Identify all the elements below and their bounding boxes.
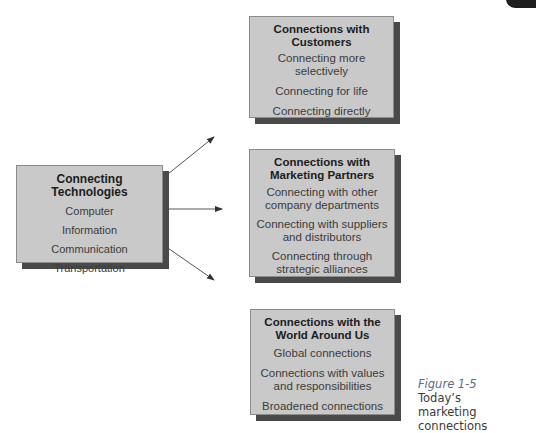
box-title: Connections with Marketing Partners <box>250 156 394 182</box>
connections-marketing-partners-box: Connections with Marketing Partners Conn… <box>249 149 395 277</box>
box-item: Connections with values and responsibili… <box>251 367 394 393</box>
box-item: Transportation <box>17 262 162 275</box>
box-item-line: Connecting directly <box>250 105 393 118</box>
box-item-line: Broadened connections <box>251 400 394 413</box>
box-item-line: Connecting for life <box>250 85 393 98</box>
figure-label: Figure 1-5 <box>418 377 520 391</box>
box-title: Connections with Customers <box>250 23 393 49</box>
figure-description-line: connections <box>418 419 520 433</box>
box-item-line: Connecting through <box>250 250 394 263</box>
box-title-line: World Around Us <box>251 329 394 342</box>
box-item-line: Connecting more <box>250 52 393 65</box>
box-title: Connections with the World Around Us <box>251 316 394 342</box>
box-item: Connecting through strategic alliances <box>250 250 394 276</box>
box-item: Computer <box>17 205 162 218</box>
box-item: Connecting for life <box>250 85 393 98</box>
box-item-line: company departments <box>250 199 394 212</box>
page-header-fragment <box>230 0 410 2</box>
box-title-line: Customers <box>250 36 393 49</box>
box-item: Broadened connections <box>251 400 394 413</box>
box-item: Information <box>17 224 162 237</box>
box-title: Connecting Technologies <box>17 173 162 199</box>
figure-caption: Figure 1-5 Today’s marketing connections <box>418 377 520 433</box>
box-item: Connecting directly <box>250 105 393 118</box>
connections-customers-box: Connections with Customers Connecting mo… <box>249 16 394 118</box>
figure-description-line: Today’s marketing <box>418 391 520 419</box>
box-item: Connecting with suppliers and distributo… <box>250 218 394 244</box>
box-title-line: Connections with <box>250 156 394 169</box>
box-item-line: selectively <box>250 65 393 78</box>
box-item: Communication <box>17 243 162 256</box>
connections-world-box: Connections with the World Around Us Glo… <box>250 309 395 415</box>
box-item: Connecting more selectively <box>250 52 393 78</box>
box-title-line: Connections with the <box>251 316 394 329</box>
corner-tab-marker <box>506 0 536 8</box>
box-item: Global connections <box>251 347 394 360</box>
arrow-to-customers <box>163 137 214 178</box>
box-item-line: Connecting with suppliers <box>250 218 394 231</box>
box-item-line: Connecting with other <box>250 186 394 199</box>
box-title-line: Marketing Partners <box>250 169 394 182</box>
box-item: Connecting with other company department… <box>250 186 394 212</box>
box-item-line: Connections with values <box>251 367 394 380</box>
box-item-line: and responsibilities <box>251 380 394 393</box>
box-item-line: Global connections <box>251 347 394 360</box>
arrow-to-world <box>162 244 214 280</box>
box-title-line: Connections with <box>250 23 393 36</box>
box-item-line: strategic alliances <box>250 263 394 276</box>
box-item-line: and distributors <box>250 231 394 244</box>
connecting-technologies-box: Connecting Technologies Computer Informa… <box>16 165 163 263</box>
